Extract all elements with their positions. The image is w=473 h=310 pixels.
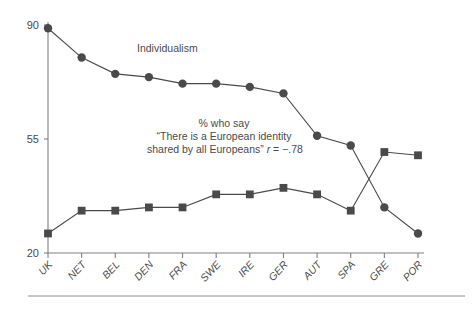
point-ire-1 <box>246 83 254 91</box>
point-bel-2 <box>111 207 119 215</box>
point-den-2 <box>145 204 153 212</box>
x-tick-label-uk: UK <box>36 257 55 277</box>
series-label-individualism: Individualism <box>137 42 198 54</box>
x-tick-label-ire: IRE <box>236 257 257 279</box>
point-fra-1 <box>178 79 186 87</box>
point-fra-2 <box>179 204 187 212</box>
point-net-1 <box>77 53 85 61</box>
annotation-line-1: % who say <box>199 117 251 129</box>
x-tick-label-spa: SPA <box>335 258 358 281</box>
point-bel-1 <box>111 70 119 78</box>
annotation-line-2: “There is a European identity <box>157 130 293 142</box>
y-tick-label-90: 90 <box>27 19 39 31</box>
point-ger-2 <box>280 184 288 192</box>
point-den-1 <box>145 73 153 81</box>
point-net-2 <box>78 207 86 215</box>
x-tick-label-bel: BEL <box>99 258 121 281</box>
point-swe-2 <box>212 190 220 198</box>
point-ire-2 <box>246 190 254 198</box>
x-tick-label-net: NET <box>65 257 89 282</box>
line-chart: 205590UKNETBELDENFRASWEIREGERAUTSPAGREPO… <box>0 0 473 310</box>
x-tick-label-fra: FRA <box>166 258 189 282</box>
point-ger-1 <box>279 89 287 97</box>
series-line-2 <box>48 152 418 233</box>
x-tick-label-ger: GER <box>266 258 291 283</box>
y-tick-label-20: 20 <box>27 247 39 259</box>
point-uk-2 <box>44 230 52 238</box>
point-spa-1 <box>347 141 355 149</box>
y-tick-label-55: 55 <box>27 133 39 145</box>
point-aut-1 <box>313 132 321 140</box>
x-tick-label-swe: SWE <box>198 257 224 283</box>
figure-container: 205590UKNETBELDENFRASWEIREGERAUTSPAGREPO… <box>0 0 473 310</box>
correlation-value: = −.78 <box>270 143 303 155</box>
annotation-line-3: shared by all Europeans” r = −.78 <box>147 143 303 155</box>
point-gre-1 <box>380 203 388 211</box>
x-tick-label-den: DEN <box>131 258 155 283</box>
point-uk-1 <box>44 24 52 32</box>
x-tick-label-gre: GRE <box>367 257 392 283</box>
point-spa-2 <box>347 207 355 215</box>
point-por-2 <box>414 151 422 159</box>
point-por-1 <box>414 229 422 237</box>
point-swe-1 <box>212 79 220 87</box>
x-tick-label-aut: AUT <box>300 257 325 282</box>
point-gre-2 <box>380 148 388 156</box>
point-aut-2 <box>313 190 321 198</box>
x-tick-label-por: POR <box>400 258 425 283</box>
series-2-square <box>44 148 422 237</box>
